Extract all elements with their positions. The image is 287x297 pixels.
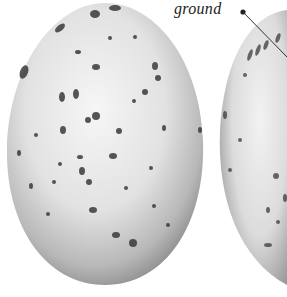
egg-illustration: ground — [0, 0, 287, 297]
right-egg — [220, 10, 287, 285]
annotation-label: ground — [174, 0, 221, 18]
left-egg — [7, 3, 203, 285]
eggs-graphic — [0, 0, 287, 297]
